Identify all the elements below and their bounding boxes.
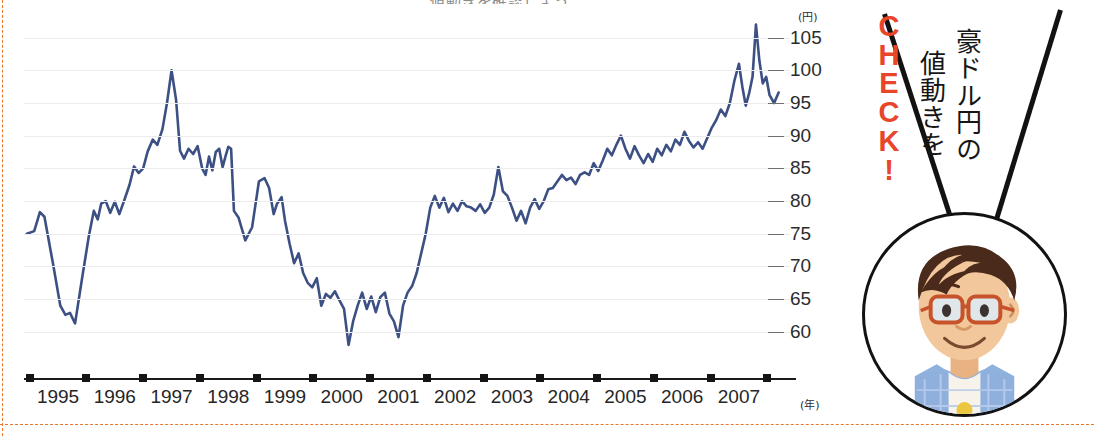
x-axis-unit: (年) — [800, 396, 820, 412]
x-tick-2004 — [536, 374, 544, 382]
line-chart: 1051009590858075706560 (円) 1995199619971… — [0, 0, 840, 436]
y-label-80: 80 — [790, 190, 811, 212]
x-label-2007: 2007 — [718, 386, 760, 408]
avatar-circle-frame — [862, 212, 1067, 417]
x-tick-2007 — [707, 374, 715, 382]
x-label-1997: 1997 — [150, 386, 192, 408]
x-label-1999: 1999 — [264, 386, 306, 408]
check-letter-4: K — [872, 127, 906, 156]
avatar-illustration — [865, 215, 1064, 414]
y-label-75: 75 — [790, 223, 811, 245]
check-letter-5: ! — [872, 156, 906, 185]
check-letter-3: C — [872, 98, 906, 127]
y-label-60: 60 — [790, 321, 811, 343]
y-tick-60 — [768, 332, 784, 333]
y-tick-75 — [768, 234, 784, 235]
x-tick-end — [763, 374, 771, 382]
check-label: CHECK! — [872, 12, 906, 184]
y-label-85: 85 — [790, 157, 811, 179]
x-label-2006: 2006 — [661, 386, 703, 408]
y-axis-unit: (円) — [798, 8, 818, 24]
x-tick-2005 — [593, 374, 601, 382]
chart-plot-area — [24, 18, 790, 358]
gridline-65 — [24, 299, 790, 300]
gridline-75 — [24, 234, 790, 235]
y-tick-85 — [768, 168, 784, 169]
x-tick-2001 — [366, 374, 374, 382]
gridline-85 — [24, 168, 790, 169]
avatar — [862, 212, 1072, 422]
x-label-2004: 2004 — [548, 386, 590, 408]
gridline-95 — [24, 103, 790, 104]
y-label-90: 90 — [790, 125, 811, 147]
x-tick-1996 — [82, 374, 90, 382]
series-line-0 — [27, 25, 779, 345]
x-tick-2000 — [309, 374, 317, 382]
y-tick-95 — [768, 103, 784, 104]
gridline-70 — [24, 266, 790, 267]
speech-cone-right-line — [989, 9, 1063, 236]
x-tick-1999 — [253, 374, 261, 382]
x-label-2001: 2001 — [377, 386, 419, 408]
callout-line-2: 値動きを — [916, 50, 944, 230]
y-tick-80 — [768, 201, 784, 202]
x-tick-1998 — [196, 374, 204, 382]
check-letter-2: E — [872, 69, 906, 98]
x-tick-1995 — [26, 374, 34, 382]
x-label-2002: 2002 — [434, 386, 476, 408]
y-tick-100 — [768, 70, 784, 71]
y-label-105: 105 — [790, 27, 822, 49]
callout-panel: CHECK! 豪ドル円の 値動きを — [840, 0, 1094, 436]
page-root: 値動きを確認しよう。 1051009590858075706560 (円) 19… — [0, 0, 1094, 436]
x-tick-1997 — [139, 374, 147, 382]
y-label-70: 70 — [790, 255, 811, 277]
y-label-100: 100 — [790, 59, 822, 81]
x-label-2005: 2005 — [604, 386, 646, 408]
y-tick-105 — [768, 38, 784, 39]
y-label-95: 95 — [790, 92, 811, 114]
x-label-2000: 2000 — [321, 386, 363, 408]
gridline-80 — [24, 201, 790, 202]
gridline-105 — [24, 38, 790, 39]
check-letter-0: C — [872, 12, 906, 41]
gridline-60 — [24, 332, 790, 333]
x-label-1998: 1998 — [207, 386, 249, 408]
x-label-1996: 1996 — [94, 386, 136, 408]
callout-line-1: 豪ドル円の — [952, 28, 980, 218]
y-tick-65 — [768, 299, 784, 300]
check-letter-1: H — [872, 41, 906, 70]
y-tick-70 — [768, 266, 784, 267]
x-tick-2003 — [480, 374, 488, 382]
x-label-2003: 2003 — [491, 386, 533, 408]
chart-series-aud-jpy — [24, 18, 790, 358]
y-label-65: 65 — [790, 288, 811, 310]
x-tick-2006 — [650, 374, 658, 382]
x-tick-2002 — [423, 374, 431, 382]
x-label-1995: 1995 — [37, 386, 79, 408]
y-tick-90 — [768, 136, 784, 137]
gridline-100 — [24, 70, 790, 71]
gridline-90 — [24, 136, 790, 137]
